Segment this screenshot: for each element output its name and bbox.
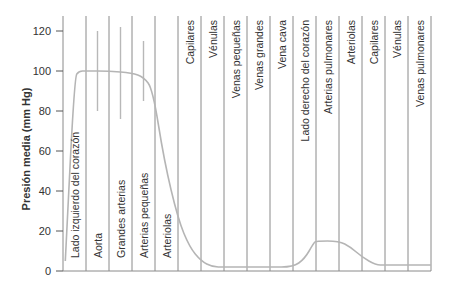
y-axis: 020406080100120 <box>33 25 63 277</box>
category-label: Aorta <box>92 233 104 258</box>
category-label: Venas pulmonares <box>414 20 426 107</box>
category-label: Grandes arterias <box>115 180 127 258</box>
pressure-chart: 020406080100120 Lado izquierdo del coraz… <box>0 0 449 287</box>
category-label: Vénulas <box>207 20 219 58</box>
category-label: Lado izquierdo del corazón <box>69 132 81 258</box>
category-label: Arteriolas <box>345 20 357 64</box>
category-label: Arterias pequeñas <box>138 173 150 258</box>
y-tick-label: 100 <box>33 65 51 77</box>
category-label: Arteriolas <box>161 214 173 258</box>
y-tick-label: 40 <box>39 185 51 197</box>
pulsatile-range-bars <box>98 27 144 119</box>
category-label: Venas pequeñas <box>230 20 242 98</box>
category-label: Lado derecho del corazón <box>299 20 311 142</box>
y-tick-label: 60 <box>39 145 51 157</box>
category-label: Vena cava <box>276 20 288 69</box>
y-axis-title: Presión media (mm Hg) <box>20 79 36 219</box>
y-tick-label: 120 <box>33 25 51 37</box>
category-label: Capilares <box>184 20 196 64</box>
category-label: Arterias pulmonares <box>322 20 334 114</box>
y-tick-label: 80 <box>39 105 51 117</box>
category-label: Vénulas <box>391 20 403 58</box>
category-label: Venas grandes <box>253 20 265 90</box>
y-tick-label: 20 <box>39 225 51 237</box>
category-label: Capilares <box>368 20 380 64</box>
y-tick-label: 0 <box>45 265 51 277</box>
